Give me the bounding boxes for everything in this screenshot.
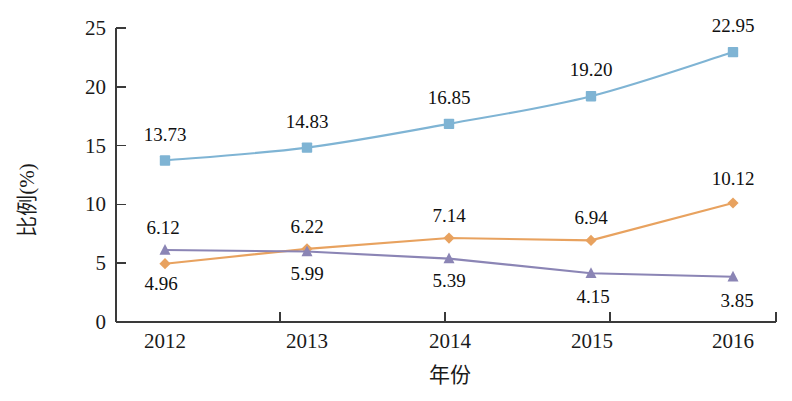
x-tick-label-2014: 2014 (429, 329, 472, 353)
y-tick-label-20: 20 (85, 75, 106, 99)
data-label-series-orange-2014: 7.14 (432, 205, 466, 226)
marker-series-blue-2013 (302, 142, 312, 152)
x-tick-label-2013: 2013 (286, 329, 328, 353)
x-axis-title: 年份 (429, 363, 471, 387)
marker-series-blue-2015 (586, 91, 596, 101)
data-label-series-orange-2013: 6.22 (290, 216, 323, 237)
marker-series-orange-2015 (585, 235, 596, 246)
chart-canvas: 25 20 15 10 5 0 比例(%) 2012 2013 2014 201… (0, 0, 792, 401)
x-tick-label-2012: 2012 (144, 329, 186, 353)
data-label-series-purple-2013: 5.99 (290, 263, 323, 284)
data-label-series-blue-2013: 14.83 (286, 111, 329, 132)
y-tick-label-0: 0 (96, 310, 107, 334)
marker-series-blue-2012 (160, 155, 170, 165)
data-label-series-blue-2012: 13.73 (144, 124, 187, 145)
series-layer (159, 47, 738, 281)
x-tick-label-2015: 2015 (571, 329, 613, 353)
data-label-series-orange-2016: 10.12 (712, 168, 755, 189)
y-axis-title: 比例(%) (15, 163, 39, 236)
y-tick-label-5: 5 (96, 251, 107, 275)
data-label-series-purple-2015: 4.15 (576, 286, 609, 307)
x-tick-label-2016: 2016 (712, 329, 754, 353)
data-label-series-purple-2012: 6.12 (146, 217, 179, 238)
y-tick-label-10: 10 (85, 192, 106, 216)
marker-series-blue-2014 (444, 119, 454, 129)
x-tick-marks (280, 312, 776, 322)
y-tick-marks (116, 28, 126, 263)
data-label-series-purple-2014: 5.39 (432, 270, 465, 291)
marker-series-orange-2012 (159, 258, 170, 269)
data-label-series-purple-2016: 3.85 (720, 290, 753, 311)
data-label-series-blue-2016: 22.95 (712, 15, 755, 36)
marker-series-orange-2016 (727, 197, 738, 208)
y-tick-label-25: 25 (85, 16, 106, 40)
y-tick-label-15: 15 (85, 134, 106, 158)
line-chart: 25 20 15 10 5 0 比例(%) 2012 2013 2014 201… (0, 0, 792, 401)
data-label-series-orange-2012: 4.96 (144, 273, 177, 294)
data-label-series-orange-2015: 6.94 (574, 207, 608, 228)
marker-series-orange-2014 (443, 232, 454, 243)
data-label-series-blue-2014: 16.85 (428, 87, 471, 108)
marker-series-blue-2016 (728, 47, 738, 57)
data-label-series-blue-2015: 19.20 (570, 59, 613, 80)
data-label-layer: 13.7314.8316.8519.2022.954.966.227.146.9… (144, 15, 755, 311)
